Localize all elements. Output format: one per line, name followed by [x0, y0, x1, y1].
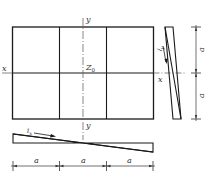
slope-label-vertical: iy	[156, 45, 167, 53]
dimension-label-h2: a	[81, 156, 86, 165]
slope-label-horizontal: ix	[27, 127, 32, 136]
dimension-label-v2: a	[197, 93, 206, 98]
origin-label: Z0	[85, 63, 96, 73]
dimension-label-v1: a	[197, 47, 206, 52]
arrowhead-horizontal	[50, 134, 56, 138]
plate-diagram: x x y y Z0 iy ix a a a a	[0, 0, 210, 181]
slope-arrow-horizontal	[34, 133, 53, 136]
x-axis-label-right: x	[158, 75, 163, 84]
y-axis-label-top: y	[85, 15, 91, 24]
dimension-label-h1: a	[34, 156, 39, 165]
diagram-canvas: x x y y Z0 iy ix a a a a	[0, 0, 210, 181]
dimension-label-h3: a	[127, 156, 132, 165]
x-axis-label-left: x	[2, 64, 7, 73]
y-axis-label-bottom: y	[85, 121, 91, 130]
